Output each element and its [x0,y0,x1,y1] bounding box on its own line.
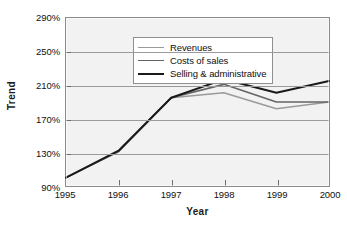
y-axis-tick-mark [66,52,71,53]
x-axis-tick-label: 2000 [320,189,341,200]
legend-item: Costs of sales [138,54,266,67]
legend-label: Selling & administrative [170,68,266,79]
x-axis-tick-mark [172,180,173,186]
y-axis-tick-mark [66,86,71,87]
gridline [66,154,329,155]
chart-legend: RevenuesCosts of salesSelling & administ… [133,37,273,84]
legend-swatch [138,73,164,75]
series-line [66,79,329,177]
y-axis-tick-label: 170% [36,114,60,125]
y-axis-tick-label: 210% [36,80,60,91]
legend-swatch [138,60,164,61]
legend-swatch [138,47,164,48]
x-axis-tick-labels: 199519961997199819992000 [65,189,330,203]
x-axis-tick-label: 1996 [108,189,129,200]
x-axis-tick-mark [225,180,226,186]
series-line [66,84,329,177]
x-axis-title: Year [65,206,330,217]
legend-item: Selling & administrative [138,67,266,80]
gridline [66,86,329,87]
x-axis-tick-mark [119,180,120,186]
y-axis-tick-mark [66,120,71,121]
y-axis-title-text: Trend [7,80,18,109]
gridline [66,120,329,121]
x-axis-tick-mark [278,180,279,186]
y-axis-tick-mark [66,154,71,155]
x-axis-tick-label: 1995 [55,189,76,200]
y-axis-tick-labels: 90%130%170%210%250%290% [18,17,63,187]
y-axis-tick-label: 250% [36,46,60,57]
gridline [66,52,329,53]
y-axis-tick-label: 130% [36,148,60,159]
x-axis-tick-label: 1999 [267,189,288,200]
y-axis-tick-label: 290% [36,12,60,23]
x-axis-tick-label: 1998 [214,189,235,200]
legend-label: Costs of sales [170,55,228,66]
plot-area: RevenuesCosts of salesSelling & administ… [65,17,330,187]
x-axis-tick-label: 1997 [161,189,182,200]
chart-figure: Trend 90%130%170%210%250%290% RevenuesCo… [0,0,347,233]
series-line [66,93,329,178]
